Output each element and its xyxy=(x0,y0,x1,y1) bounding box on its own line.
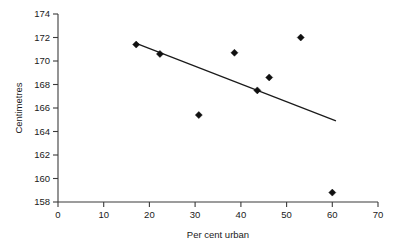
data-point xyxy=(231,49,238,56)
x-axis-tick-labels: 0 10 20 30 40 50 60 70 xyxy=(55,209,383,220)
x-tick-label-10: 10 xyxy=(98,209,109,220)
y-tick-label-170: 170 xyxy=(34,55,50,66)
x-tick-label-30: 30 xyxy=(190,209,201,220)
y-tick-label-162: 162 xyxy=(34,149,50,160)
data-point xyxy=(133,41,140,48)
data-point xyxy=(329,189,336,196)
data-points-group xyxy=(133,34,336,196)
y-axis-tick-labels: 174 172 170 168 166 164 162 160 158 xyxy=(34,8,50,207)
y-tick-label-164: 164 xyxy=(34,126,50,137)
y-tick-label-174: 174 xyxy=(34,8,50,19)
y-axis-ticks xyxy=(53,14,58,202)
y-tick-label-160: 160 xyxy=(34,173,50,184)
data-point xyxy=(195,112,202,119)
scatter-plot-figure: 174 172 170 168 166 164 162 160 158 0 10… xyxy=(0,0,400,245)
x-tick-label-60: 60 xyxy=(327,209,338,220)
x-axis-title: Per cent urban xyxy=(187,229,249,240)
y-tick-label-168: 168 xyxy=(34,79,50,90)
axes-group xyxy=(58,14,378,202)
y-axis-title: Centimetres xyxy=(13,82,24,133)
data-point xyxy=(297,34,304,41)
x-tick-label-0: 0 xyxy=(55,209,60,220)
x-tick-label-20: 20 xyxy=(144,209,155,220)
y-tick-label-158: 158 xyxy=(34,196,50,207)
x-axis-ticks xyxy=(58,202,378,207)
y-tick-label-172: 172 xyxy=(34,32,50,43)
data-point xyxy=(254,87,261,94)
data-point xyxy=(266,74,273,81)
x-tick-label-40: 40 xyxy=(236,209,247,220)
x-tick-label-50: 50 xyxy=(281,209,292,220)
chart-canvas: 174 172 170 168 166 164 162 160 158 0 10… xyxy=(0,0,400,245)
y-tick-label-166: 166 xyxy=(34,102,50,113)
x-tick-label-70: 70 xyxy=(373,209,384,220)
